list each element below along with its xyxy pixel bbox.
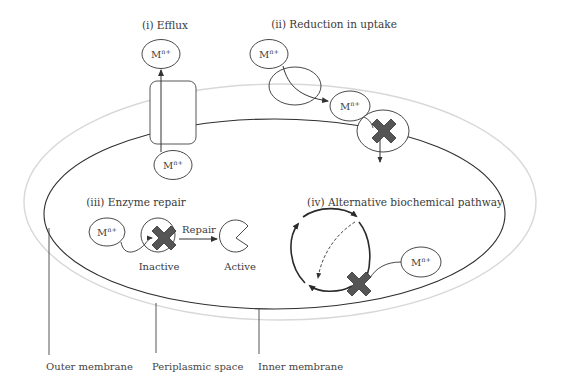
enzyme-repair-section: (iii) Enzyme repair Mn+ Repair Inactive … (86, 196, 256, 272)
resistance-mechanisms-diagram: (i) Efflux Mn+ Mn+ (ii) Reduction in upt… (0, 0, 561, 385)
porin (269, 67, 321, 105)
outer-membrane-label: Outer membrane (46, 361, 133, 372)
repair-label: Repair (182, 224, 216, 235)
periplasmic-space-label: Periplasmic space (152, 361, 243, 372)
bypass-dashed-arrow (318, 222, 355, 278)
pathway-arc-bottom (310, 286, 352, 291)
inhibition-line (370, 262, 401, 278)
efflux-pump (150, 81, 196, 144)
pathway-arc-right (359, 222, 370, 276)
reduction-title: (ii) Reduction in uptake (271, 18, 397, 30)
active-enzyme (220, 220, 248, 252)
active-label: Active (223, 261, 256, 272)
inner-membrane-label: Inner membrane (258, 361, 343, 372)
pathway-arc-left (291, 224, 305, 283)
efflux-section: (i) Efflux Mn+ Mn+ (142, 19, 196, 180)
inner-membrane (44, 119, 505, 309)
efflux-title: (i) Efflux (142, 19, 188, 31)
inactive-label: Inactive (139, 261, 180, 272)
blocked-step-x-icon (347, 272, 371, 296)
reduction-uptake-section: (ii) Reduction in uptake Mn+ Mn+ (250, 18, 409, 162)
pathway-title: (iv) Alternative biochemical pathway (307, 196, 503, 208)
pathway-arc-top (303, 209, 356, 217)
repair-title: (iii) Enzyme repair (86, 196, 187, 208)
legend: Outer membrane Periplasmic space Inner m… (46, 228, 343, 372)
